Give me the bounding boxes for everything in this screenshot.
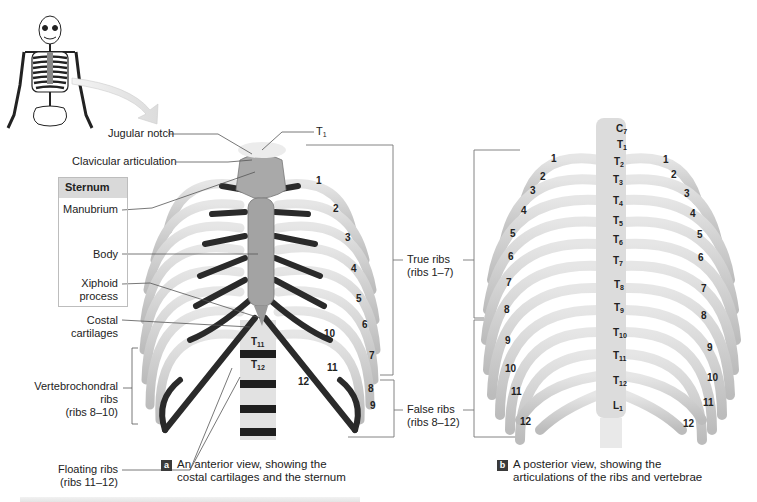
label-costal-line1: Costal <box>52 314 118 327</box>
label-vc-line2: ribs <box>20 393 118 406</box>
vertebra-label: C7 <box>616 124 627 137</box>
label-t1: T1 <box>316 126 327 140</box>
label-clavicular-articulation: Clavicular articulation <box>72 155 177 168</box>
panel-badge-b: b <box>497 460 508 471</box>
vertebra-label: T8 <box>614 280 624 293</box>
rib-number-a: 9 <box>370 401 376 411</box>
rib-number-b-left: 1 <box>551 154 557 164</box>
caption-b-line2: articulations of the ribs and vertebrae <box>497 471 702 484</box>
rib-number-b-left: 3 <box>530 186 536 196</box>
label-false-ribs: False ribs (ribs 8–12) <box>407 403 460 429</box>
rib-number-b-right: 7 <box>701 284 707 294</box>
rib-number-a: 12 <box>298 377 309 387</box>
rib-number-b-right: 5 <box>697 230 703 240</box>
rib-number-a: 5 <box>356 294 362 304</box>
label-true-ribs-line1: True ribs <box>407 253 453 266</box>
anterior-rib-cage <box>144 142 376 440</box>
rib-number-b-right: 3 <box>684 189 690 199</box>
vertebra-label: T11 <box>613 351 627 364</box>
rib-number-a: 4 <box>351 264 357 274</box>
label-costal-line2: cartilages <box>52 327 118 340</box>
rib-number-b-left: 7 <box>506 278 512 288</box>
callout-arrow-icon <box>72 78 158 124</box>
skeleton-orientation-icon <box>8 16 92 128</box>
caption-panel-a: aAn anterior view, showing the costal ca… <box>161 458 346 484</box>
posterior-rib-cage <box>486 118 736 448</box>
label-floating-line1: Floating ribs <box>20 463 118 476</box>
label-jugular-notch: Jugular notch <box>108 127 174 140</box>
rib-number-b-right: 2 <box>671 170 677 180</box>
vertebra-label: T6 <box>613 235 623 248</box>
label-manubrium: Manubrium <box>62 203 118 216</box>
rib-number-a: 2 <box>333 204 339 214</box>
rib-number-b-right: 12 <box>683 419 694 429</box>
rib-number-a: 11 <box>327 363 338 373</box>
rib-number-b-left: 10 <box>505 364 516 374</box>
label-true-ribs-line2: (ribs 1–7) <box>407 266 453 279</box>
label-costal-cartilages: Costal cartilages <box>52 314 118 340</box>
rib-number-b-right: 9 <box>707 343 713 353</box>
vertebra-label: T7 <box>613 256 623 269</box>
rib-number-b-right: 11 <box>703 398 714 408</box>
rib-number-a: 8 <box>368 384 374 394</box>
label-false-ribs-line1: False ribs <box>407 403 460 416</box>
rib-number-a: 1 <box>316 176 322 186</box>
rib-number-b-right: 1 <box>663 155 669 165</box>
caption-b-line1: A posterior view, showing the <box>513 458 661 470</box>
label-true-ribs: True ribs (ribs 1–7) <box>407 253 453 279</box>
rib-number-b-right: 10 <box>707 373 718 383</box>
vertebra-label: T4 <box>613 196 623 209</box>
label-vertebrochondral-ribs: Vertebrochondral ribs (ribs 8–10) <box>20 380 118 419</box>
vertebra-label: T3 <box>613 175 623 188</box>
rib-number-b-left: 4 <box>521 206 527 216</box>
vertebra-label-t11: T11 <box>251 337 265 350</box>
rib-number-b-left: 6 <box>508 252 514 262</box>
label-xiphoid-line1: Xiphoid <box>62 277 118 290</box>
rib-number-a: 6 <box>362 320 368 330</box>
label-vc-line3: (ribs 8–10) <box>20 406 118 419</box>
rib-number-a: 3 <box>345 233 351 243</box>
rib-number-b-left: 2 <box>540 172 546 182</box>
rib-number-b-left: 8 <box>504 305 510 315</box>
label-body: Body <box>62 248 118 261</box>
sternum-box-title: Sternum <box>59 178 127 198</box>
rib-number-b-left: 5 <box>510 229 516 239</box>
vertebra-label: L1 <box>613 401 623 414</box>
label-xiphoid-line2: process <box>62 290 118 303</box>
rib-number-b-right: 4 <box>690 209 696 219</box>
caption-panel-b: bA posterior view, showing the articulat… <box>497 458 702 484</box>
vertebra-label: T5 <box>613 216 623 229</box>
vertebra-label: T1 <box>617 140 627 153</box>
caption-a-line2: costal cartilages and the sternum <box>161 471 346 484</box>
label-floating-line2: (ribs 11–12) <box>20 476 118 489</box>
label-vc-line1: Vertebrochondral <box>20 380 118 393</box>
vertebra-label-t12: T12 <box>251 360 265 373</box>
rib-number-b-right: 6 <box>698 253 704 263</box>
vertebra-label: T9 <box>614 303 624 316</box>
rib-number-b-left: 9 <box>505 336 511 346</box>
caption-a-line1: An anterior view, showing the <box>177 458 327 470</box>
rib-number-a: 7 <box>369 351 375 361</box>
rib-number-b-left: 12 <box>520 417 531 427</box>
bottom-divider <box>20 497 360 502</box>
label-floating-ribs: Floating ribs (ribs 11–12) <box>20 463 118 489</box>
panel-badge-a: a <box>161 460 172 471</box>
label-false-ribs-line2: (ribs 8–12) <box>407 416 460 429</box>
vertebra-label: T2 <box>614 157 624 170</box>
label-xiphoid: Xiphoid process <box>62 277 118 303</box>
vertebra-label: T10 <box>613 328 627 341</box>
vertebra-label: T12 <box>613 376 627 389</box>
rib-number-b-right: 8 <box>701 311 707 321</box>
rib-number-b-left: 11 <box>511 387 522 397</box>
rib-number-a: 10 <box>324 329 335 339</box>
